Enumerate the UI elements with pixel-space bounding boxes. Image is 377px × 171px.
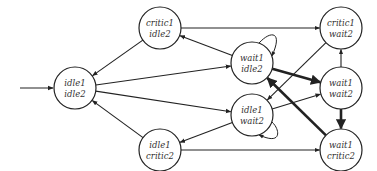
state-node-wait1-critic2: wait1critic2 bbox=[320, 129, 362, 171]
edge-s0-to-s3 bbox=[96, 91, 231, 112]
state-label-process1: wait1 bbox=[329, 78, 353, 88]
state-circle bbox=[320, 67, 362, 109]
edge-s3-to-s4 bbox=[180, 122, 232, 142]
state-circle bbox=[320, 7, 362, 49]
state-label-process1: wait1 bbox=[240, 53, 264, 63]
state-label-process2: critic2 bbox=[327, 151, 355, 161]
state-label-process1: idle1 bbox=[64, 78, 85, 88]
state-node-idle1-critic2: idle1critic2 bbox=[139, 129, 181, 171]
state-node-wait1-idle2: wait1idle2 bbox=[231, 42, 273, 84]
state-node-idle1-wait2: idle1wait2 bbox=[231, 94, 273, 136]
state-diagram: idle1idle2critic1idle2wait1idle2idle1wai… bbox=[0, 0, 377, 171]
state-node-wait1-wait2: wait1wait2 bbox=[320, 67, 362, 109]
edge-s1-to-s0 bbox=[93, 40, 143, 75]
edge-s2-to-s1 bbox=[180, 36, 232, 56]
state-label-process1: critic1 bbox=[146, 18, 174, 28]
state-label-process2: wait2 bbox=[329, 29, 353, 39]
state-node-critic1-wait2: critic1wait2 bbox=[320, 7, 362, 49]
state-node-critic1-idle2: critic1idle2 bbox=[139, 7, 181, 49]
state-label-process1: idle1 bbox=[149, 140, 170, 150]
state-label-process2: wait2 bbox=[240, 116, 264, 126]
state-label-process2: idle2 bbox=[149, 29, 170, 39]
state-circle bbox=[231, 42, 273, 84]
state-circle bbox=[231, 94, 273, 136]
edges-layer bbox=[92, 28, 341, 150]
edge-s0-to-s2 bbox=[96, 66, 231, 85]
state-circle bbox=[320, 129, 362, 171]
state-circle bbox=[139, 129, 181, 171]
state-label-process2: wait2 bbox=[329, 89, 353, 99]
state-label-process1: idle1 bbox=[241, 105, 262, 115]
state-label-process2: critic2 bbox=[146, 151, 174, 161]
edge-s5-to-s3 bbox=[267, 43, 326, 100]
state-label-process1: wait1 bbox=[329, 140, 353, 150]
state-label-process2: idle2 bbox=[241, 64, 262, 74]
state-circle bbox=[54, 67, 96, 109]
state-label-process1: critic1 bbox=[327, 18, 355, 28]
nodes-layer: idle1idle2critic1idle2wait1idle2idle1wai… bbox=[54, 7, 362, 171]
state-label-process2: idle2 bbox=[64, 89, 85, 99]
state-circle bbox=[139, 7, 181, 49]
edge-s4-to-s0 bbox=[92, 101, 143, 138]
state-node-idle1-idle2: idle1idle2 bbox=[54, 67, 96, 109]
edge-s2-to-s6 bbox=[272, 69, 320, 83]
